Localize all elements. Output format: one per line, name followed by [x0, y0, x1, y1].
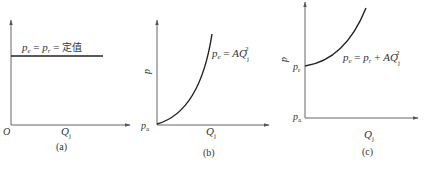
panel-caption: (a) [56, 141, 67, 153]
y-origin-label: pa [140, 120, 150, 133]
panel-b: pe = AQj2 p pa Qj (b) [140, 20, 269, 159]
panel-a: pe = pr = 定值 O Qj (a) [3, 20, 130, 153]
y-axis-label: p [141, 69, 152, 75]
x-axis-label: Qj [206, 125, 216, 140]
x-axis-label: Qj [61, 125, 71, 140]
y-origin-label: pa [292, 111, 302, 124]
equation-label: pe = pr + AQj2 [342, 49, 400, 67]
y-axis-label: p [278, 57, 289, 63]
equation-label: pe = AQj2 [211, 45, 249, 63]
equation-label: pe = pr = 定值 [21, 41, 82, 55]
panel-caption: (c) [362, 146, 373, 158]
panel-c: pe = pr + AQj2 p pr pa Qj (c) [278, 2, 418, 158]
x-axis-label: Qj [364, 128, 374, 143]
quadratic-curve [157, 34, 212, 124]
origin-label: O [3, 126, 10, 137]
y-intercept-label: pr [292, 61, 301, 74]
figure-canvas: pe = pr = 定值 O Qj (a) pe = AQj2 p pa Qj … [0, 0, 425, 169]
panel-caption: (b) [203, 147, 215, 159]
